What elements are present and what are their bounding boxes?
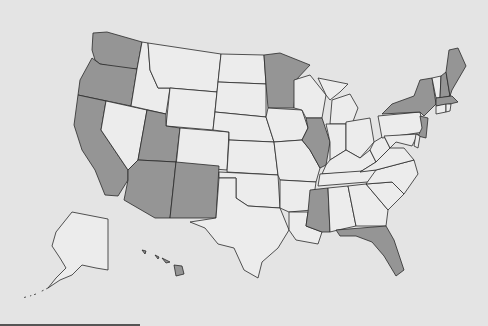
state-az (124, 160, 176, 218)
state-nm (170, 162, 219, 218)
states-layer (48, 32, 466, 288)
us-map (0, 0, 488, 326)
state-ri (446, 104, 451, 112)
state-nd (218, 54, 266, 84)
state-mt (148, 43, 221, 92)
state-ct (436, 104, 446, 114)
state-ms (306, 188, 330, 232)
state-sd (215, 82, 266, 117)
state-ks (227, 140, 278, 175)
state-fl (336, 226, 404, 276)
state-md (384, 134, 418, 148)
state-wy (166, 88, 217, 130)
state-ia (266, 108, 308, 142)
state-me (446, 48, 466, 96)
state-ak (48, 212, 108, 288)
state-ny (382, 78, 436, 116)
state-hi (142, 250, 184, 276)
alaska-islands (22, 288, 48, 298)
